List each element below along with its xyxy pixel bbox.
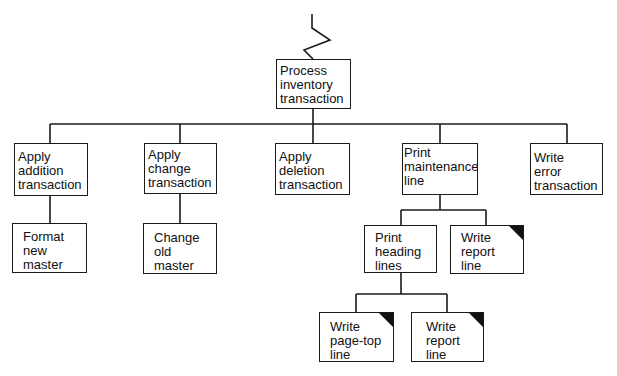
- module-label: change: [148, 162, 213, 176]
- module-label: Print: [375, 231, 433, 245]
- module-label: new: [23, 244, 83, 258]
- module-write-page-top-line: Write page-top line: [319, 312, 394, 362]
- module-label: Change: [154, 231, 213, 245]
- module-label: deletion: [279, 164, 346, 178]
- module-label: inventory: [280, 78, 347, 92]
- module-label: old: [154, 245, 213, 259]
- module-label: page-top: [330, 334, 390, 348]
- module-label: Apply: [18, 150, 84, 164]
- module-print-heading-lines: Print heading lines: [364, 225, 437, 273]
- module-apply-addition-transaction: Apply addition transaction: [14, 143, 88, 196]
- module-label: Apply: [148, 148, 213, 162]
- module-label: Process: [280, 64, 347, 78]
- module-label: line: [330, 348, 390, 362]
- module-label: transaction: [534, 179, 599, 193]
- module-label: line: [461, 259, 520, 273]
- module-write-error-transaction: Write error transaction: [530, 143, 603, 195]
- module-label: report: [426, 334, 480, 348]
- module-format-new-master: Format new master: [12, 223, 87, 273]
- module-label: master: [154, 259, 213, 273]
- module-label: report: [461, 245, 520, 259]
- module-apply-deletion-transaction: Apply deletion transaction: [275, 143, 350, 195]
- module-apply-change-transaction: Apply change transaction: [144, 143, 217, 194]
- module-label: heading: [375, 245, 433, 259]
- module-change-old-master: Change old master: [143, 223, 217, 274]
- module-label: error: [534, 165, 599, 179]
- module-label: Print: [404, 146, 474, 160]
- module-label: transaction: [18, 178, 84, 192]
- module-label: Write: [534, 151, 599, 165]
- module-label: line: [404, 174, 474, 188]
- module-label: lines: [375, 259, 433, 273]
- off-page-connector-icon: [304, 14, 330, 59]
- common-module-corner-icon: [469, 313, 483, 327]
- module-print-maintenance-line: Print maintenance line: [402, 143, 478, 195]
- module-label: Format: [23, 230, 83, 244]
- common-module-corner-icon: [379, 313, 393, 327]
- common-module-corner-icon: [509, 226, 523, 240]
- module-write-report-line: Write report line: [450, 225, 524, 274]
- module-label: transaction: [148, 176, 213, 190]
- module-label: transaction: [279, 178, 346, 192]
- module-label: addition: [18, 164, 84, 178]
- module-label: maintenance: [404, 160, 474, 174]
- module-label: line: [426, 348, 480, 362]
- module-label: transaction: [280, 92, 347, 106]
- module-label: Apply: [279, 150, 346, 164]
- module-process-inventory-transaction: Process inventory transaction: [276, 59, 351, 109]
- module-label: master: [23, 258, 83, 272]
- module-write-report-line-2: Write report line: [411, 312, 484, 362]
